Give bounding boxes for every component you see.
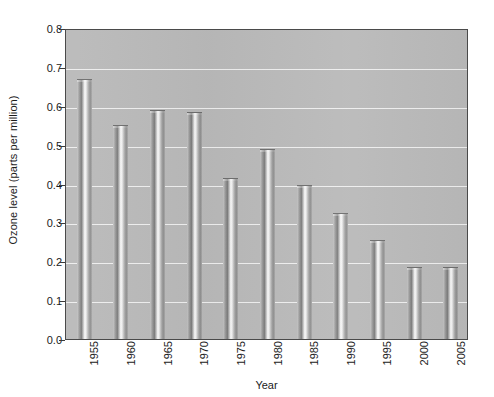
y-tick-label: 0.1 xyxy=(26,295,62,307)
y-axis-tick-labels: 0.00.10.20.30.40.50.60.70.8 xyxy=(22,0,62,397)
bar xyxy=(223,178,238,339)
x-tick-label: 1995 xyxy=(381,341,393,365)
y-tick-label: 0.4 xyxy=(26,179,62,191)
x-axis-title: Year xyxy=(65,379,468,391)
x-tick-label: 1960 xyxy=(125,341,137,365)
bar xyxy=(443,267,458,339)
y-tick-label: 0.5 xyxy=(26,140,62,152)
x-tick-label: 1980 xyxy=(272,341,284,365)
bar-series xyxy=(66,30,467,339)
x-tick-label: 1965 xyxy=(162,341,174,365)
bar xyxy=(77,79,92,339)
x-tick-label: 2000 xyxy=(418,341,430,365)
x-tick-label: 1975 xyxy=(235,341,247,365)
bar xyxy=(150,110,165,339)
x-tick-label: 1990 xyxy=(345,341,357,365)
x-tick-label: 2005 xyxy=(455,341,467,365)
y-tick-label: 0.0 xyxy=(26,334,62,346)
y-axis-title: Ozone level (parts per million) xyxy=(2,0,24,340)
x-tick-label: 1955 xyxy=(88,341,100,365)
bar xyxy=(187,112,202,339)
x-tick-label: 1970 xyxy=(198,341,210,365)
bar xyxy=(113,125,128,339)
y-tick-label: 0.2 xyxy=(26,256,62,268)
x-axis-tick-labels: 1955196019651970197519801985199019952000… xyxy=(65,341,468,381)
y-tick-label: 0.8 xyxy=(26,23,62,35)
bar xyxy=(407,267,422,339)
y-axis-title-text: Ozone level (parts per million) xyxy=(7,95,19,244)
plot-area xyxy=(65,29,468,340)
ozone-bar-chart: Ozone level (parts per million) 0.00.10.… xyxy=(0,0,494,397)
y-tick-label: 0.6 xyxy=(26,101,62,113)
bar xyxy=(297,185,312,339)
x-tick-label: 1985 xyxy=(308,341,320,365)
y-tick-label: 0.7 xyxy=(26,62,62,74)
bar xyxy=(260,149,275,339)
bar xyxy=(370,240,385,339)
bar xyxy=(333,213,348,339)
y-tick-label: 0.3 xyxy=(26,217,62,229)
